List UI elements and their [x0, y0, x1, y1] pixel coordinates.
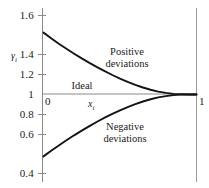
annotation-negative-deviations: Negative deviations — [92, 121, 158, 145]
annotation-positive-line1: Positive — [110, 46, 144, 57]
annotation-ideal: Ideal — [62, 80, 102, 92]
y-tick-label-1.2: 1.2 — [4, 68, 34, 80]
chart-figure: 1.6 1.4 1.2 1 0.8 0.6 0.4 γi 0 1 xi Posi… — [0, 0, 209, 188]
y-tick-label-0.8: 0.8 — [4, 108, 34, 120]
y-tick-label-1.4: 1.4 — [4, 48, 34, 60]
y-tick-label-1.6: 1.6 — [4, 9, 34, 21]
annotation-positive-line2: deviations — [96, 58, 158, 70]
annotation-negative-line2: deviations — [92, 133, 158, 145]
y-axis-subscript: i — [15, 56, 17, 64]
annotation-negative-line1: Negative — [106, 121, 144, 132]
y-tick-label-1: 1 — [4, 88, 34, 100]
x-axis-label: xi — [88, 98, 94, 112]
y-tick-label-0.4: 0.4 — [4, 167, 34, 179]
x-tick-label-0: 0 — [45, 95, 51, 107]
y-axis-label: γi — [11, 50, 17, 64]
x-axis-subscript: i — [92, 104, 94, 112]
annotation-positive-deviations: Positive deviations — [96, 46, 158, 70]
y-tick-label-0.6: 0.6 — [4, 128, 34, 140]
annotation-ideal-line1: Ideal — [72, 80, 93, 91]
x-tick-label-1: 1 — [199, 95, 205, 107]
